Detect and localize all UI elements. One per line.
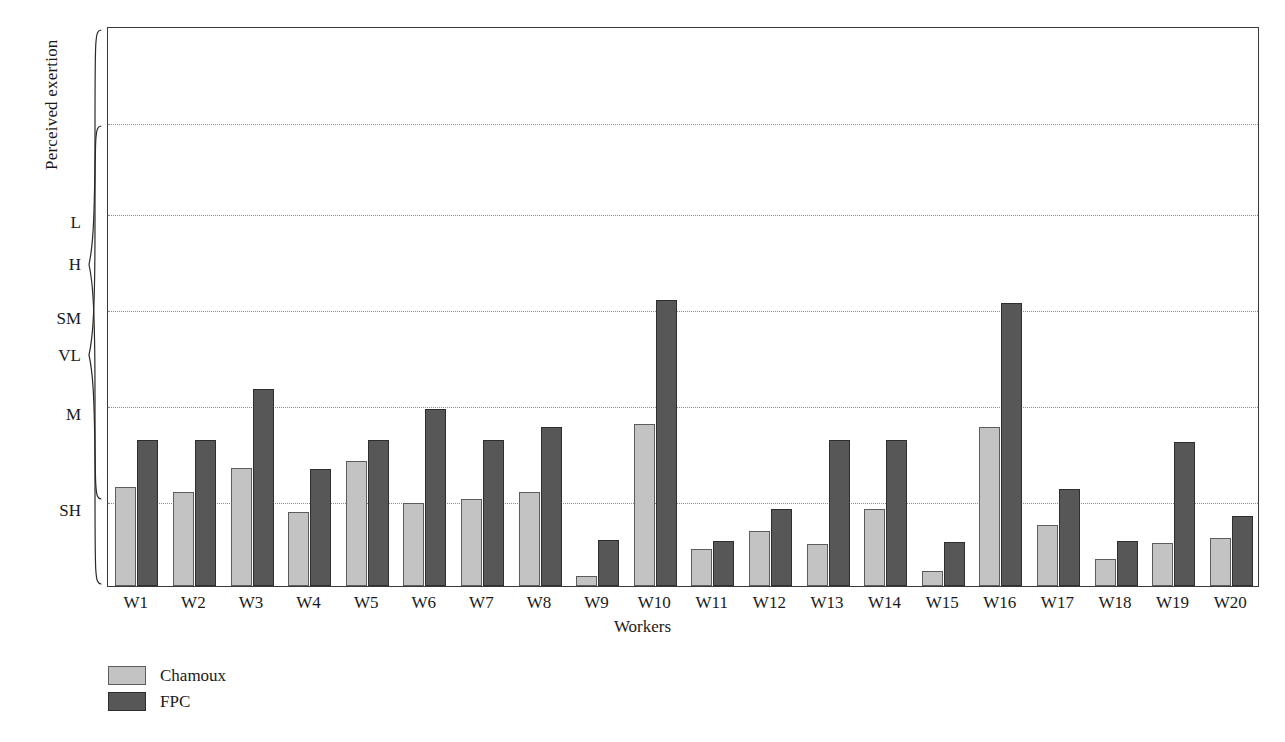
bar-group xyxy=(1037,28,1080,586)
chart-figure: Perceived exertion VLLSMMSHH W1W2W3W4W5W… xyxy=(0,0,1285,742)
bar-group xyxy=(519,28,562,586)
bar-fpc-w19 xyxy=(1174,442,1195,586)
bar-chamoux-w10 xyxy=(634,424,655,586)
chart-legend: Chamoux FPC xyxy=(108,662,226,714)
y-axis-category-label: SH xyxy=(59,502,88,519)
bar-fpc-w9 xyxy=(598,540,619,586)
bar-group xyxy=(231,28,274,586)
bar-fpc-w20 xyxy=(1232,516,1253,586)
x-axis-label-w15: W15 xyxy=(913,590,971,616)
x-axis-label-w2: W2 xyxy=(165,590,223,616)
bar-group xyxy=(691,28,734,586)
bar-group xyxy=(576,28,619,586)
bar-chamoux-w3 xyxy=(231,468,252,586)
x-axis-label-w17: W17 xyxy=(1029,590,1087,616)
x-axis-label-w11: W11 xyxy=(683,590,741,616)
x-axis-tick-labels: W1W2W3W4W5W6W7W8W9W10W11W12W13W14W15W16W… xyxy=(107,590,1259,616)
bar-series-container xyxy=(108,28,1258,586)
y-axis-category-h: H xyxy=(48,27,104,502)
x-axis-label-w7: W7 xyxy=(453,590,511,616)
bar-fpc-w15 xyxy=(944,542,965,586)
x-axis-label-w13: W13 xyxy=(798,590,856,616)
bar-fpc-w13 xyxy=(829,440,850,586)
x-axis-label-w14: W14 xyxy=(856,590,914,616)
bar-fpc-w11 xyxy=(713,541,734,586)
x-axis-label-w19: W19 xyxy=(1144,590,1202,616)
bar-chamoux-w12 xyxy=(749,531,770,586)
bar-group xyxy=(115,28,158,586)
bar-chamoux-w16 xyxy=(979,427,1000,586)
bar-chamoux-w8 xyxy=(519,492,540,586)
bar-group xyxy=(922,28,965,586)
plot-area xyxy=(107,27,1259,587)
x-axis-label-w1: W1 xyxy=(107,590,165,616)
y-axis-category-label: H xyxy=(69,256,88,273)
x-axis-label-w4: W4 xyxy=(280,590,338,616)
bar-fpc-w18 xyxy=(1117,541,1138,586)
bar-group xyxy=(173,28,216,586)
bar-group xyxy=(749,28,792,586)
bar-chamoux-w9 xyxy=(576,576,597,586)
y-axis-category-sh: SH xyxy=(48,502,104,519)
x-axis-label-w3: W3 xyxy=(222,590,280,616)
x-axis-label-w20: W20 xyxy=(1201,590,1259,616)
x-axis-label-w9: W9 xyxy=(568,590,626,616)
bar-chamoux-w20 xyxy=(1210,538,1231,586)
legend-item-fpc: FPC xyxy=(108,688,226,714)
bar-fpc-w14 xyxy=(886,440,907,586)
bar-chamoux-w17 xyxy=(1037,525,1058,586)
bar-fpc-w3 xyxy=(253,389,274,586)
bar-group xyxy=(807,28,850,586)
legend-label-fpc: FPC xyxy=(160,693,190,710)
x-axis-label-w16: W16 xyxy=(971,590,1029,616)
bar-fpc-w12 xyxy=(771,509,792,586)
legend-item-chamoux: Chamoux xyxy=(108,662,226,688)
bar-group xyxy=(864,28,907,586)
bar-fpc-w10 xyxy=(656,300,677,586)
bar-fpc-w16 xyxy=(1001,303,1022,586)
legend-label-chamoux: Chamoux xyxy=(160,667,226,684)
bar-fpc-w17 xyxy=(1059,489,1080,586)
legend-swatch-chamoux xyxy=(108,666,146,685)
bar-chamoux-w15 xyxy=(922,571,943,586)
bar-group xyxy=(1152,28,1195,586)
x-axis-title: Workers xyxy=(0,617,1285,637)
curly-brace-icon xyxy=(88,29,104,500)
legend-swatch-fpc xyxy=(108,692,146,711)
bar-group xyxy=(461,28,504,586)
bar-chamoux-w2 xyxy=(173,492,194,586)
x-axis-label-w5: W5 xyxy=(337,590,395,616)
bar-group xyxy=(288,28,331,586)
bar-group xyxy=(634,28,677,586)
bar-fpc-w2 xyxy=(195,440,216,586)
bar-chamoux-w14 xyxy=(864,509,885,586)
bar-group xyxy=(1210,28,1253,586)
bar-group xyxy=(346,28,389,586)
bar-fpc-w4 xyxy=(310,469,331,586)
bar-fpc-w7 xyxy=(483,440,504,586)
bar-chamoux-w4 xyxy=(288,512,309,586)
bar-chamoux-w18 xyxy=(1095,559,1116,586)
x-axis-label-w8: W8 xyxy=(510,590,568,616)
bar-group xyxy=(979,28,1022,586)
x-axis-label-w12: W12 xyxy=(741,590,799,616)
x-axis-label-w10: W10 xyxy=(625,590,683,616)
bar-chamoux-w13 xyxy=(807,544,828,586)
bar-chamoux-w19 xyxy=(1152,543,1173,586)
bar-fpc-w5 xyxy=(368,440,389,586)
bar-group xyxy=(403,28,446,586)
x-axis-label-w6: W6 xyxy=(395,590,453,616)
bar-chamoux-w1 xyxy=(115,487,136,586)
bar-chamoux-w7 xyxy=(461,499,482,586)
bar-chamoux-w11 xyxy=(691,549,712,586)
bar-fpc-w6 xyxy=(425,409,446,586)
bar-chamoux-w6 xyxy=(403,503,424,586)
bar-group xyxy=(1095,28,1138,586)
bar-fpc-w1 xyxy=(137,440,158,586)
x-axis-label-w18: W18 xyxy=(1086,590,1144,616)
bar-chamoux-w5 xyxy=(346,461,367,586)
bar-fpc-w8 xyxy=(541,427,562,586)
